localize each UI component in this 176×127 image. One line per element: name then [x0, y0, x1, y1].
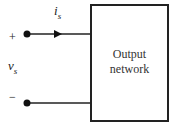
minus-sign: −: [9, 90, 16, 105]
plus-sign: +: [9, 30, 16, 45]
voltage-label: vs: [8, 58, 17, 76]
current-arrow-icon: [54, 30, 62, 38]
bottom-terminal-dot: [24, 100, 31, 107]
current-subscript: s: [58, 11, 62, 21]
output-network-label: Output network: [91, 47, 168, 77]
top-terminal-dot: [24, 31, 31, 38]
current-label: is: [54, 3, 61, 21]
output-network-label-line1: Output: [91, 47, 168, 62]
voltage-subscript: s: [14, 66, 18, 76]
output-network-label-line2: network: [91, 62, 168, 77]
